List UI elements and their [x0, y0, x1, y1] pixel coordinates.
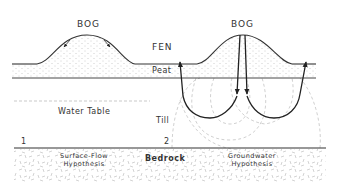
hypothesis-2-line1: Groundwater: [222, 152, 282, 160]
peatland-hydrology-diagram: [0, 0, 343, 192]
bedrock-label: Bedrock: [145, 155, 185, 163]
hypothesis-1-line2: Hypothesis: [54, 160, 114, 168]
till-label: Till: [156, 117, 169, 125]
site-marker-2: 2: [164, 138, 170, 146]
left-bog-dome: [37, 35, 135, 64]
peat-label: Peat: [152, 67, 172, 75]
groundwater-hypothesis-label: Groundwater Hypothesis: [222, 152, 282, 168]
fen-label: FEN: [152, 43, 173, 52]
site-marker-1: 1: [21, 138, 27, 146]
hypothesis-1-line1: Surface-Flow: [54, 152, 114, 160]
surface-flow-hypothesis-label: Surface-Flow Hypothesis: [54, 152, 114, 168]
water-table-label: Water Table: [58, 108, 110, 116]
hypothesis-2-line2: Hypothesis: [222, 160, 282, 168]
bog-right-label: BOG: [231, 20, 254, 29]
bog-left-label: BOG: [77, 20, 100, 29]
